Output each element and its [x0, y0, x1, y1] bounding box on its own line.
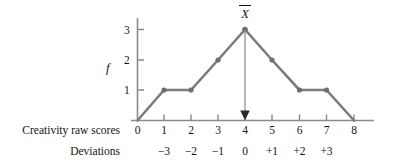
- deviation-label-plus-2: +2: [293, 145, 305, 157]
- deviation-label-minus-3: −3: [158, 145, 170, 157]
- x-tick-label-1: 1: [161, 124, 167, 136]
- deviation-label-zero: 0: [242, 145, 248, 157]
- data-point-marker: [297, 87, 302, 92]
- mean-xbar-annotation: X: [239, 5, 251, 22]
- x-tick-label-0: 0: [135, 124, 141, 136]
- x-axis-label: Creativity raw scores: [8, 124, 120, 137]
- x-tick-label-4: 4: [242, 124, 248, 136]
- y-tick-label-2: 2: [124, 54, 130, 66]
- x-tick-label-7: 7: [324, 124, 330, 136]
- chart-canvas: [0, 0, 395, 168]
- data-point-marker: [215, 57, 220, 62]
- data-point-marker: [269, 57, 274, 62]
- frequency-polygon-figure: 3 2 1 f Creativity raw scores 0 1 2 3 4 …: [0, 0, 395, 168]
- x-tick-label-3: 3: [215, 124, 221, 136]
- x-tick-label-6: 6: [297, 124, 303, 136]
- data-point-marker: [188, 87, 193, 92]
- deviation-label-plus-3: +3: [320, 145, 332, 157]
- y-axis-label: f: [106, 60, 110, 76]
- x-tick-label-8: 8: [351, 124, 357, 136]
- deviations-row-label: Deviations: [8, 145, 120, 158]
- y-tick-label-3: 3: [124, 24, 130, 36]
- data-point-marker: [324, 87, 329, 92]
- frequency-polygon-line: [138, 30, 355, 121]
- x-tick-label-2: 2: [188, 124, 194, 136]
- deviation-label-minus-1: −1: [212, 145, 224, 157]
- x-tick-label-5: 5: [269, 124, 275, 136]
- mean-symbol-label: X: [239, 7, 251, 22]
- y-tick-label-1: 1: [124, 84, 130, 96]
- deviation-label-minus-2: −2: [185, 145, 197, 157]
- mean-arrow-head-icon: [240, 111, 250, 121]
- deviation-label-plus-1: +1: [266, 145, 278, 157]
- data-point-marker: [161, 87, 166, 92]
